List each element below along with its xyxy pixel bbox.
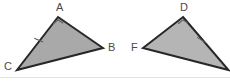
vertex-label-c: C (4, 61, 12, 72)
triangle-def-group (143, 17, 229, 70)
vertex-label-f: F (131, 42, 138, 53)
triangle-abc-shape (17, 17, 103, 70)
vertex-label-b: B (108, 42, 115, 53)
vertex-label-a: A (56, 2, 63, 13)
vertex-label-d: D (180, 2, 188, 13)
triangle-abc-group (17, 17, 103, 70)
triangle-def-shape (143, 17, 229, 70)
geometry-figure-canvas: A B C D F (0, 0, 230, 83)
